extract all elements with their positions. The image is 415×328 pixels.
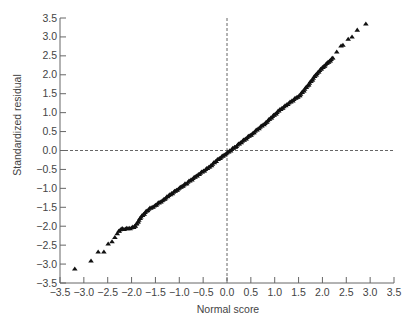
x-tick-label: 2.0 bbox=[315, 286, 330, 298]
y-tick-label: 2.5 bbox=[42, 49, 57, 61]
x-axis: −3.5−3.0−2.5−2.0−1.5−1.0−0.50.00.51.01.5… bbox=[50, 277, 402, 298]
y-tick-label: −1.5 bbox=[36, 201, 57, 213]
x-tick-label: 3.5 bbox=[387, 286, 402, 298]
x-tick-label: −0.5 bbox=[193, 286, 214, 298]
x-axis-title: Normal score bbox=[197, 303, 260, 315]
x-tick-label: −3.5 bbox=[50, 286, 71, 298]
y-tick-label: 0.5 bbox=[42, 125, 57, 137]
triangle-marker bbox=[334, 50, 340, 54]
x-tick-label: 2.5 bbox=[339, 286, 354, 298]
y-tick-label: 3.5 bbox=[42, 12, 57, 24]
y-tick-label: −2.5 bbox=[36, 239, 57, 251]
triangle-marker bbox=[349, 34, 355, 38]
triangle-marker bbox=[95, 249, 101, 253]
y-tick-label: 1.0 bbox=[42, 106, 57, 118]
reference-lines bbox=[60, 18, 394, 283]
y-tick-label: −0.5 bbox=[36, 163, 57, 175]
triangle-marker bbox=[72, 266, 78, 270]
y-tick-label: 3.0 bbox=[42, 30, 57, 42]
triangle-marker bbox=[101, 249, 107, 253]
triangle-marker bbox=[112, 235, 118, 239]
triangle-marker bbox=[109, 239, 115, 243]
x-tick-label: −3.0 bbox=[73, 286, 94, 298]
qq-plot: 3.53.02.52.01.51.00.50.0−0.5−1.0−1.5−2.0… bbox=[0, 0, 415, 328]
x-tick-label: −2.0 bbox=[121, 286, 142, 298]
x-tick-label: 3.0 bbox=[363, 286, 378, 298]
y-tick-label: −1.0 bbox=[36, 182, 57, 194]
x-tick-label: −2.5 bbox=[97, 286, 118, 298]
x-tick-label: 0.5 bbox=[244, 286, 259, 298]
y-tick-label: −2.0 bbox=[36, 220, 57, 232]
data-points bbox=[72, 22, 369, 271]
x-tick-label: −1.0 bbox=[169, 286, 190, 298]
y-tick-label: 0.0 bbox=[42, 144, 57, 156]
triangle-marker bbox=[354, 28, 360, 32]
y-axis-title: Standardized residual bbox=[11, 74, 23, 176]
y-tick-label: 1.5 bbox=[42, 87, 57, 99]
y-tick-label: −3.0 bbox=[36, 258, 57, 270]
triangle-marker bbox=[363, 22, 369, 26]
x-tick-label: 1.0 bbox=[267, 286, 282, 298]
y-tick-label: 2.0 bbox=[42, 68, 57, 80]
x-tick-label: −1.5 bbox=[145, 286, 166, 298]
y-axis: 3.53.02.52.01.51.00.50.0−0.5−1.0−1.5−2.0… bbox=[36, 12, 66, 289]
triangle-marker bbox=[88, 259, 94, 263]
x-tick-label: 0.0 bbox=[220, 286, 235, 298]
x-tick-label: 1.5 bbox=[291, 286, 306, 298]
